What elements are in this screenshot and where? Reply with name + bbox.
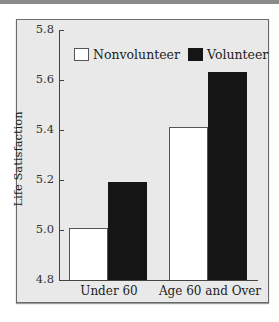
y-tick-label: 5.8 <box>24 22 54 36</box>
y-tick <box>59 130 64 131</box>
bar-nonvolunteer-0 <box>69 228 108 280</box>
x-axis-line <box>59 280 258 281</box>
y-tick <box>59 80 64 81</box>
bar-volunteer-0 <box>108 182 147 280</box>
bar-nonvolunteer-1 <box>169 127 208 280</box>
legend-label-volunteer: Volunteer <box>207 47 268 62</box>
y-tick-label: 5.4 <box>24 122 54 136</box>
x-category-label: Age 60 and Over <box>158 284 262 298</box>
y-tick <box>59 230 64 231</box>
y-tick-label: 5.6 <box>24 72 54 86</box>
y-axis-line <box>59 30 60 280</box>
y-tick-label: 5.0 <box>24 222 54 236</box>
legend-swatch-nonvolunteer <box>74 48 89 61</box>
legend-label-nonvolunteer: Nonvolunteer <box>93 47 180 62</box>
y-tick <box>59 30 64 31</box>
bar-volunteer-1 <box>208 72 247 280</box>
x-category-label: Under 60 <box>64 284 154 298</box>
legend-swatch-volunteer <box>188 48 203 61</box>
y-axis-label: Life Satisfaction <box>11 89 25 229</box>
top-border-strip <box>0 0 279 4</box>
y-tick <box>59 180 64 181</box>
y-tick-label: 4.8 <box>24 272 54 286</box>
y-tick-label: 5.2 <box>24 172 54 186</box>
legend: Nonvolunteer Volunteer <box>74 47 268 62</box>
